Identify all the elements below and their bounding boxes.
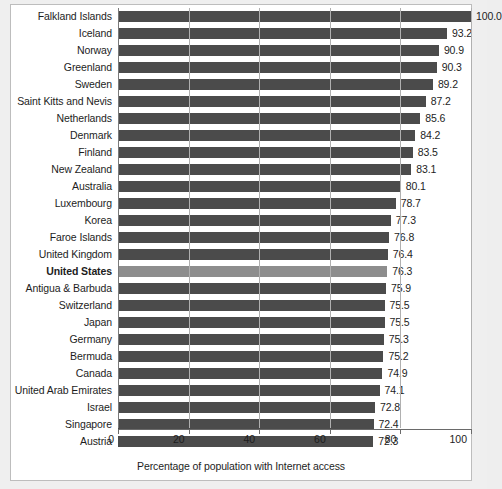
category-label: Bermuda xyxy=(11,348,112,365)
bar xyxy=(118,164,411,175)
category-label: Korea xyxy=(11,212,112,229)
category-label: Denmark xyxy=(11,127,112,144)
x-tick-label-100: 100 xyxy=(427,433,467,445)
chart-panel: Falkland Islands100.0Iceland93.2Norway90… xyxy=(10,4,472,481)
x-tick-mark-40 xyxy=(259,429,260,434)
bar-track: 72.8 xyxy=(118,399,471,416)
bar xyxy=(118,62,437,73)
bar-value-label: 75.5 xyxy=(390,297,410,314)
bar-track: 74.9 xyxy=(118,365,471,382)
bar-track: 80.1 xyxy=(118,178,471,195)
x-axis-line xyxy=(118,429,471,430)
bar-row: United Arab Emirates74.1 xyxy=(11,382,471,399)
x-tick-label-0: 0 xyxy=(74,433,114,445)
bar-track: 100.0 xyxy=(118,8,471,25)
gridline-100 xyxy=(471,8,472,428)
bar xyxy=(118,368,382,379)
x-tick-label-80: 80 xyxy=(356,433,396,445)
bar-track: 89.2 xyxy=(118,76,471,93)
bar-track: 84.2 xyxy=(118,127,471,144)
bar-value-label: 89.2 xyxy=(438,76,458,93)
bar-track: 90.9 xyxy=(118,42,471,59)
bar-row: Switzerland75.5 xyxy=(11,297,471,314)
bar-row: United States76.3 xyxy=(11,263,471,280)
bar-track: 74.1 xyxy=(118,382,471,399)
bar-row: Denmark84.2 xyxy=(11,127,471,144)
bar-track: 83.5 xyxy=(118,144,471,161)
category-label: Japan xyxy=(11,314,112,331)
bar-track: 76.4 xyxy=(118,246,471,263)
bar-value-label: 83.1 xyxy=(416,161,436,178)
bar-value-label: 75.9 xyxy=(391,280,411,297)
bar xyxy=(118,402,375,413)
bar xyxy=(118,300,385,311)
bar-row: Norway90.9 xyxy=(11,42,471,59)
bar-track: 75.5 xyxy=(118,297,471,314)
bar-value-label: 90.3 xyxy=(442,59,462,76)
category-label: United States xyxy=(11,263,112,280)
bar-value-label: 75.3 xyxy=(389,331,409,348)
bar-track: 85.6 xyxy=(118,110,471,127)
category-label: New Zealand xyxy=(11,161,112,178)
x-tick-label-60: 60 xyxy=(286,433,326,445)
bar-value-label: 78.7 xyxy=(401,195,421,212)
bar-value-label: 83.5 xyxy=(418,144,438,161)
bar-row: Korea77.3 xyxy=(11,212,471,229)
bar-track: 90.3 xyxy=(118,59,471,76)
bar-row: Germany75.3 xyxy=(11,331,471,348)
bar-row: Luxembourg78.7 xyxy=(11,195,471,212)
bar-row: United Kingdom76.4 xyxy=(11,246,471,263)
x-axis-caption: Percentage of population with Internet a… xyxy=(11,460,471,472)
bar-row: Iceland93.2 xyxy=(11,25,471,42)
bar-row: Japan75.5 xyxy=(11,314,471,331)
category-label: Israel xyxy=(11,399,112,416)
bar xyxy=(118,45,439,56)
bar-value-label: 76.8 xyxy=(394,229,414,246)
bar-track: 76.8 xyxy=(118,229,471,246)
x-tick-mark-60 xyxy=(330,429,331,434)
bar xyxy=(118,351,383,362)
bar-value-label: 76.4 xyxy=(393,246,413,263)
category-label: Saint Kitts and Nevis xyxy=(11,93,112,110)
category-label: Falkland Islands xyxy=(11,8,112,25)
bar-value-label: 74.1 xyxy=(385,382,405,399)
bar-track: 78.7 xyxy=(118,195,471,212)
bar xyxy=(118,28,447,39)
bar xyxy=(118,147,413,158)
bar-value-label: 100.0 xyxy=(476,8,502,25)
bar-value-label: 76.3 xyxy=(392,263,412,280)
bar-value-label: 87.2 xyxy=(431,93,451,110)
bar xyxy=(118,266,387,277)
category-label: Norway xyxy=(11,42,112,59)
bar-value-label: 93.2 xyxy=(452,25,472,42)
bar xyxy=(118,283,386,294)
bar-row: Sweden89.2 xyxy=(11,76,471,93)
bar-row: Faroe Islands76.8 xyxy=(11,229,471,246)
bar xyxy=(118,385,380,396)
bar-row: Bermuda75.2 xyxy=(11,348,471,365)
bar-track: 76.3 xyxy=(118,263,471,280)
bar-track: 75.3 xyxy=(118,331,471,348)
bar-track: 75.5 xyxy=(118,314,471,331)
bar-row: New Zealand83.1 xyxy=(11,161,471,178)
bar-value-label: 77.3 xyxy=(396,212,416,229)
bar xyxy=(118,198,396,209)
bar-track: 87.2 xyxy=(118,93,471,110)
category-label: Germany xyxy=(11,331,112,348)
bar-value-label: 72.8 xyxy=(380,399,400,416)
bar-track: 93.2 xyxy=(118,25,471,42)
bar xyxy=(118,317,385,328)
bar-value-label: 85.6 xyxy=(425,110,445,127)
bar-row: Finland83.5 xyxy=(11,144,471,161)
bar-row: Australia80.1 xyxy=(11,178,471,195)
x-axis: 020406080100 xyxy=(118,429,471,455)
category-label: United Kingdom xyxy=(11,246,112,263)
bar-value-label: 74.9 xyxy=(387,365,407,382)
x-tick-mark-0 xyxy=(118,429,119,434)
bar-row: Canada74.9 xyxy=(11,365,471,382)
bar-row: Greenland90.3 xyxy=(11,59,471,76)
category-label: Luxembourg xyxy=(11,195,112,212)
bar-value-label: 80.1 xyxy=(406,178,426,195)
chart-rows: Falkland Islands100.0Iceland93.2Norway90… xyxy=(11,8,471,428)
